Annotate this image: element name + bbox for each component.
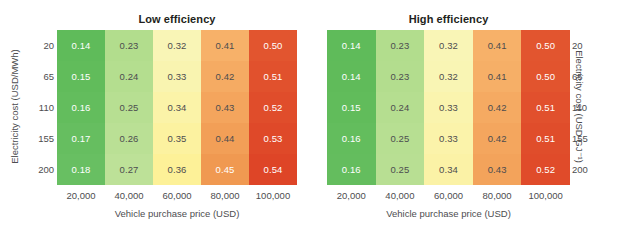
heatmap-cell: 0.43 (201, 92, 249, 123)
heatmap-cell: 0.23 (376, 61, 425, 92)
x-axis-title-high-efficiency: Vehicle purchase price (USD) (327, 208, 570, 219)
y-tick-label: 65 (43, 61, 54, 92)
heatmap-cell: 0.50 (249, 30, 297, 61)
x-tick-label: 100,000 (521, 188, 570, 202)
heatmap-cell: 0.45 (201, 154, 249, 185)
heatmap-cell: 0.43 (473, 154, 522, 185)
x-tick-label: 40,000 (105, 188, 153, 202)
x-tick-label: 80,000 (201, 188, 249, 202)
x-tick-label: 80,000 (473, 188, 522, 202)
heatmap-grid-high-efficiency: 0.140.230.320.410.500.140.230.320.410.50… (327, 30, 570, 185)
x-tick-label: 40,000 (376, 188, 425, 202)
heatmap-cell: 0.44 (201, 123, 249, 154)
heatmap-cell: 0.14 (57, 30, 105, 61)
panel-title-low-efficiency: Low efficiency (57, 13, 297, 25)
heatmap-cell: 0.33 (424, 123, 473, 154)
heatmap-cell: 0.41 (201, 30, 249, 61)
heatmap-cell: 0.24 (376, 92, 425, 123)
y-tick-label: 110 (39, 92, 54, 123)
heatmap-cell: 0.23 (376, 30, 425, 61)
heatmap-cell: 0.25 (376, 154, 425, 185)
x-tick-labels-high-efficiency: 20,000 40,000 60,000 80,000 100,000 (327, 188, 570, 202)
heatmap-grid-low-efficiency: 0.140.230.320.410.500.150.240.330.420.51… (57, 30, 297, 185)
heatmap-cell: 0.24 (105, 61, 153, 92)
heatmap-cell: 0.52 (249, 92, 297, 123)
heatmap-cell: 0.51 (521, 123, 570, 154)
heatmap-cell: 0.51 (521, 92, 570, 123)
heatmap-cell: 0.41 (473, 61, 522, 92)
heatmap-cell: 0.53 (249, 123, 297, 154)
heatmap-cell: 0.25 (376, 123, 425, 154)
heatmap-cell: 0.25 (105, 92, 153, 123)
heatmap-cell: 0.33 (424, 92, 473, 123)
x-tick-labels-low-efficiency: 20,000 40,000 60,000 80,000 100,000 (57, 188, 297, 202)
panel-low-efficiency: Low efficiency 20 65 110 155 200 0.140.2… (0, 0, 313, 232)
heatmap-cell: 0.42 (201, 61, 249, 92)
x-tick-label: 20,000 (327, 188, 376, 202)
heatmap-cell: 0.42 (473, 123, 522, 154)
x-tick-label: 20,000 (57, 188, 105, 202)
heatmap-cell: 0.50 (521, 30, 570, 61)
y-tick-label: 20 (43, 30, 54, 61)
heatmap-cell: 0.17 (57, 123, 105, 154)
heatmap-cell: 0.51 (249, 61, 297, 92)
heatmap-cell: 0.18 (57, 154, 105, 185)
heatmap-cell: 0.16 (327, 123, 376, 154)
x-tick-label: 100,000 (249, 188, 297, 202)
heatmap-cell: 0.26 (105, 123, 153, 154)
heatmap-cell: 0.41 (473, 30, 522, 61)
y-axis-title-right: Electricity cost (USD GJ⁻¹) (574, 37, 585, 177)
heatmap-cell: 0.15 (327, 92, 376, 123)
heatmap-cell: 0.34 (424, 154, 473, 185)
heatmap-figure: Low efficiency 20 65 110 155 200 0.140.2… (0, 0, 626, 232)
heatmap-cell: 0.14 (327, 61, 376, 92)
panel-high-efficiency: High efficiency 0.140.230.320.410.500.14… (313, 0, 626, 232)
x-tick-label: 60,000 (153, 188, 201, 202)
heatmap-cell: 0.42 (473, 92, 522, 123)
heatmap-cell: 0.36 (153, 154, 201, 185)
heatmap-cell: 0.35 (153, 123, 201, 154)
heatmap-cell: 0.23 (105, 30, 153, 61)
heatmap-cell: 0.34 (153, 92, 201, 123)
panel-title-high-efficiency: High efficiency (327, 13, 570, 25)
y-tick-labels-left: 20 65 110 155 200 (20, 30, 54, 185)
heatmap-cell: 0.32 (424, 30, 473, 61)
heatmap-cell: 0.50 (521, 61, 570, 92)
heatmap-cell: 0.15 (57, 61, 105, 92)
heatmap-cell: 0.14 (327, 30, 376, 61)
heatmap-cell: 0.16 (57, 92, 105, 123)
heatmap-cell: 0.27 (105, 154, 153, 185)
y-axis-title-left: Electricity cost (USD/MWh) (9, 37, 20, 177)
heatmap-cell: 0.33 (153, 61, 201, 92)
heatmap-cell: 0.52 (521, 154, 570, 185)
x-axis-title-low-efficiency: Vehicle purchase price (USD) (57, 208, 297, 219)
heatmap-cell: 0.32 (424, 61, 473, 92)
heatmap-cell: 0.16 (327, 154, 376, 185)
heatmap-cell: 0.54 (249, 154, 297, 185)
heatmap-cell: 0.32 (153, 30, 201, 61)
y-tick-label: 155 (38, 123, 54, 154)
x-tick-label: 60,000 (424, 188, 473, 202)
y-tick-label: 200 (38, 154, 54, 185)
